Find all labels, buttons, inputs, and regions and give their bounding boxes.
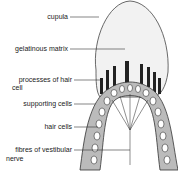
label-fibres-of-vestibular-nerve: fibres of vestibular [15,146,72,154]
nerve-fibres [112,94,148,165]
label-fibres-of-vestibular-nerve-2: nerve [6,155,24,163]
label-processes-of-hair-cell: processes of hair [19,76,72,84]
label-gelatinous-matrix: gelatinous matrix [15,45,68,53]
label-processes-of-hair-cell-2: cell [12,84,23,92]
label-hair-cells: hair cells [44,123,72,131]
label-supporting-cells: supporting cells [23,100,72,108]
label-cupula: cupula [47,13,68,21]
